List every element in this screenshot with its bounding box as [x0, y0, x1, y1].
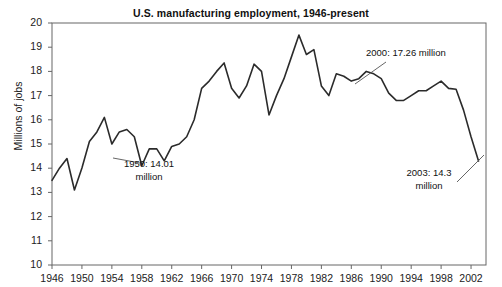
x-axis-ticks	[52, 265, 471, 269]
y-tick-label: 17	[18, 89, 42, 101]
y-tick-label: 15	[18, 137, 42, 149]
plot-area	[0, 0, 502, 287]
annotation-1950: 1950: 14.01 million	[109, 158, 189, 183]
y-tick-label: 14	[18, 161, 42, 173]
y-tick-label: 13	[18, 185, 42, 197]
annotation-2000: 2000: 17.26 million	[366, 47, 496, 60]
y-tick-label: 16	[18, 113, 42, 125]
y-tick-label: 11	[18, 234, 42, 246]
y-tick-label: 18	[18, 64, 42, 76]
annotation-leader-2000	[355, 62, 386, 84]
y-tick-label: 10	[18, 258, 42, 270]
x-tick-label: 2002	[451, 272, 491, 284]
chart-figure: U.S. manufacturing employment, 1946-pres…	[0, 0, 502, 287]
annotation-2003: 2003: 14.3 million	[392, 167, 466, 192]
y-tick-label: 20	[18, 16, 42, 28]
y-axis-ticks	[48, 23, 52, 265]
y-tick-label: 19	[18, 40, 42, 52]
y-tick-label: 12	[18, 210, 42, 222]
